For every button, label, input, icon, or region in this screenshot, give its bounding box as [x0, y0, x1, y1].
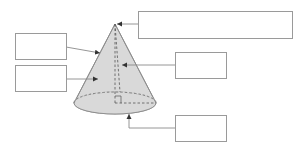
- label-box-height[interactable]: [175, 52, 227, 79]
- label-box-curved-surface[interactable]: [15, 65, 67, 92]
- label-box-base[interactable]: [175, 115, 227, 142]
- connector-slant-height: [66, 47, 100, 53]
- label-box-slant-height[interactable]: [15, 33, 67, 60]
- label-box-apex[interactable]: [138, 11, 293, 39]
- connector-base: [129, 114, 175, 128]
